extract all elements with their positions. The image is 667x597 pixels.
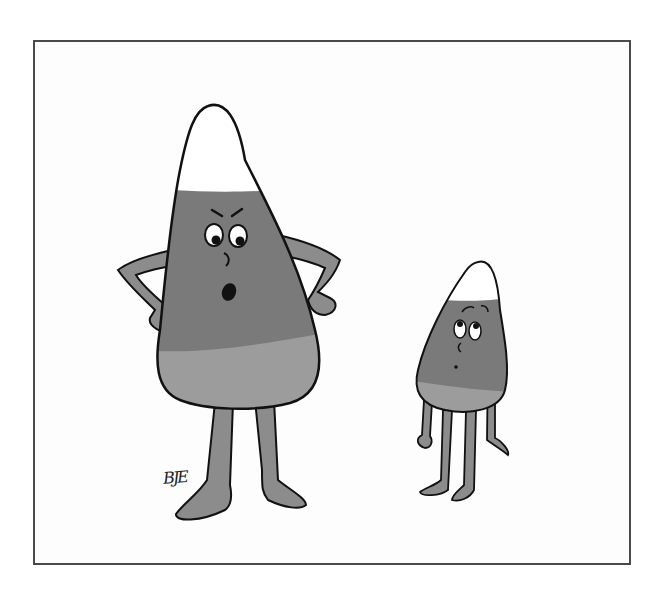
big-candy-corn [118,90,340,520]
artist-signature: BJE [162,467,187,488]
cartoon-illustration [0,0,667,597]
big-legs [176,400,306,520]
small-candy-corn [405,250,515,501]
